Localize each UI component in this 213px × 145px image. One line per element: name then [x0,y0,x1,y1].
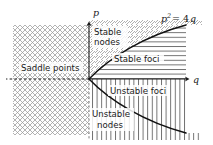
p-axis-label: p [93,7,99,18]
stable-nodes-text-line1: Stable [94,27,121,37]
stability-diagram-svg: p q p 2 = 4 q Saddle points Stable nodes… [0,0,213,145]
label-unstable-nodes: Unstable nodes [90,108,134,131]
unstable-nodes-text-line2: nodes [97,120,123,130]
label-stable-foci: Stable foci [112,53,164,64]
stable-nodes-text-line2: nodes [94,37,120,47]
equation-exponent: 2 [166,12,171,20]
label-stable-nodes: Stable nodes [92,26,128,48]
figure-canvas: p q p 2 = 4 q Saddle points Stable nodes… [0,0,213,145]
equation-operator: = 4 [172,13,189,24]
unstable-nodes-text-line1: Unstable [92,109,130,119]
region-saddle-points [13,25,89,135]
label-saddle-points: Saddle points [19,62,83,73]
saddle-points-text: Saddle points [21,63,80,73]
stable-foci-text: Stable foci [114,54,159,64]
label-unstable-foci: Unstable foci [108,85,168,96]
parabola-equation-label: p 2 = 4 q [161,12,196,24]
q-axis-label: q [193,74,199,85]
equation-q: q [190,13,196,24]
unstable-foci-text: Unstable foci [110,86,166,96]
